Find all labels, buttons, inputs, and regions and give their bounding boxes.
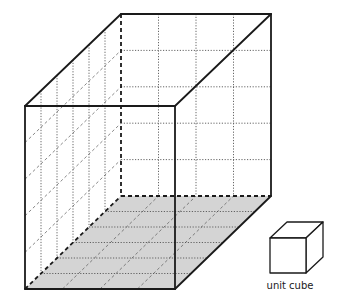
- edge-top-right-depth: [175, 14, 271, 106]
- left-wall-gridline-diagonal: [25, 123, 121, 216]
- unit-cube-icon: [270, 222, 323, 273]
- unit-cube-front-face: [270, 238, 306, 273]
- box-diagram: unit cube: [0, 0, 340, 306]
- left-wall-gridline-diagonal: [25, 50, 121, 142]
- edge-top-left-depth: [25, 14, 121, 106]
- unit-cube-label: unit cube: [267, 280, 314, 291]
- left-wall-gridline-diagonal: [25, 87, 121, 179]
